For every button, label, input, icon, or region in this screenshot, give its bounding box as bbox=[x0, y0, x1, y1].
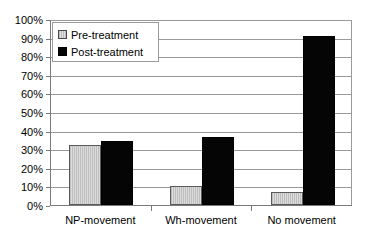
x-axis-label-no-movement: No movement bbox=[267, 213, 335, 227]
bar-pre-treatment-wh-movement bbox=[170, 186, 202, 205]
legend-swatch-post-treatment-icon bbox=[58, 47, 67, 56]
y-axis-labels: 0%10%20%30%40%50%60%70%80%90%100% bbox=[0, 0, 46, 247]
bar-post-treatment-no-movement bbox=[303, 36, 335, 205]
legend-label-pre-treatment: Pre-treatment bbox=[71, 29, 138, 41]
legend-item-pre-treatment: Pre-treatment bbox=[58, 26, 154, 43]
legend-label-post-treatment: Post-treatment bbox=[71, 46, 143, 58]
x-axis-labels: NP-movementWh-movementNo movement bbox=[50, 213, 352, 235]
bar-pre-treatment-no-movement bbox=[271, 192, 303, 205]
y-axis-tick-label: 40% bbox=[21, 126, 43, 137]
y-axis-tick-label: 60% bbox=[21, 89, 43, 100]
legend-item-post-treatment: Post-treatment bbox=[58, 43, 154, 60]
y-axis-tick-label: 100% bbox=[15, 15, 43, 26]
x-axis-separator bbox=[251, 206, 252, 211]
y-axis-tick-label: 50% bbox=[21, 108, 43, 119]
y-axis-tick-label: 0% bbox=[27, 201, 43, 212]
bar-pre-treatment-np-movement bbox=[69, 145, 101, 205]
y-axis-tick-label: 90% bbox=[21, 33, 43, 44]
y-axis-tick-label: 20% bbox=[21, 163, 43, 174]
y-axis-tick-label: 80% bbox=[21, 52, 43, 63]
y-axis-tick-label: 30% bbox=[21, 145, 43, 156]
y-axis-tick-label: 10% bbox=[21, 182, 43, 193]
chart-legend: Pre-treatment Post-treatment bbox=[52, 22, 159, 62]
y-axis-tick-mark bbox=[46, 206, 50, 207]
bar-chart: 0%10%20%30%40%50%60%70%80%90%100% NP-mov… bbox=[0, 0, 369, 247]
x-axis-label-np-movement: NP-movement bbox=[65, 213, 135, 227]
legend-swatch-pre-treatment-icon bbox=[58, 30, 67, 39]
x-axis-separator bbox=[151, 206, 152, 211]
y-axis-tick-label: 70% bbox=[21, 70, 43, 81]
bar-post-treatment-np-movement bbox=[101, 141, 133, 205]
x-axis-label-wh-movement: Wh-movement bbox=[165, 213, 237, 227]
bar-post-treatment-wh-movement bbox=[202, 137, 234, 205]
